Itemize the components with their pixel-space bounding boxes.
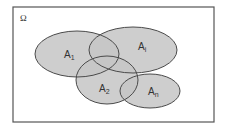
venn-diagram: Ω A1 Ai A2 An [0,0,225,131]
universe-label: Ω [20,13,27,23]
